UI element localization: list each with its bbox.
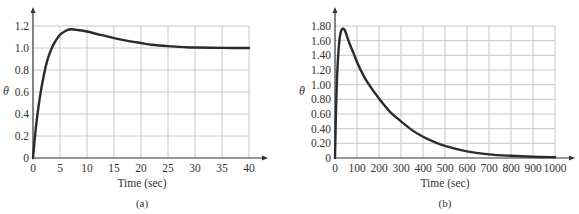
y-axis-label: θ xyxy=(299,84,305,98)
x-tick-label: 10 xyxy=(81,162,93,174)
y-tick-label: 1.0 xyxy=(15,42,30,54)
x-tick-label: 0 xyxy=(30,162,36,174)
x-tick-label: 25 xyxy=(162,162,174,174)
x-axis-arrow-icon xyxy=(262,156,268,161)
x-tick-label: 1000 xyxy=(544,162,567,174)
y-tick-label: 0 xyxy=(23,152,29,164)
y-axis-arrow-icon xyxy=(333,7,338,13)
x-tick-label: 900 xyxy=(524,162,542,174)
y-tick-label: 0.2 xyxy=(15,130,30,142)
x-tick-label: 100 xyxy=(348,162,366,174)
figure: 00.20.40.60.81.01.20510152025303540θTime… xyxy=(0,0,579,214)
x-tick-label: 15 xyxy=(108,162,120,174)
x-tick-label: 700 xyxy=(480,162,498,174)
x-tick-label: 500 xyxy=(436,162,454,174)
y-tick-label: 0.80 xyxy=(311,93,331,105)
y-tick-label: 0.6 xyxy=(15,86,30,98)
panel-caption-a: (a) xyxy=(136,197,149,210)
panel-caption-b: (b) xyxy=(439,197,452,210)
x-tick-label: 300 xyxy=(392,162,410,174)
y-tick-label: 1.20 xyxy=(311,64,331,76)
x-tick-label: 800 xyxy=(502,162,520,174)
x-tick-label: 0 xyxy=(332,162,338,174)
y-tick-label: 1.40 xyxy=(311,49,331,61)
y-tick-label: 0.4 xyxy=(15,108,30,120)
x-axis-label: Time (sec) xyxy=(117,177,166,190)
x-tick-label: 20 xyxy=(135,162,147,174)
y-tick-label: 1.60 xyxy=(311,35,331,47)
y-tick-label: 0.20 xyxy=(311,137,331,149)
x-tick-label: 40 xyxy=(243,162,255,174)
x-axis-arrow-icon xyxy=(569,156,575,161)
x-tick-label: 30 xyxy=(189,162,201,174)
x-tick-label: 400 xyxy=(414,162,432,174)
y-tick-label: 1.00 xyxy=(311,79,331,91)
x-tick-label: 600 xyxy=(458,162,476,174)
y-axis-label: θ xyxy=(3,84,9,98)
x-tick-label: 35 xyxy=(216,162,228,174)
x-axis-label: Time (sec) xyxy=(420,177,469,190)
chart-canvas: 00.20.40.60.81.01.20510152025303540θTime… xyxy=(0,0,579,214)
x-tick-label: 200 xyxy=(370,162,388,174)
y-tick-label: 0.40 xyxy=(311,123,331,135)
y-tick-label: 0 xyxy=(325,152,331,164)
y-tick-label: 0.8 xyxy=(15,64,30,76)
y-tick-label: 1.80 xyxy=(311,20,331,32)
y-tick-label: 1.2 xyxy=(15,20,30,32)
y-tick-label: 0.60 xyxy=(311,108,331,120)
x-tick-label: 5 xyxy=(57,162,63,174)
y-axis-arrow-icon xyxy=(31,7,36,13)
